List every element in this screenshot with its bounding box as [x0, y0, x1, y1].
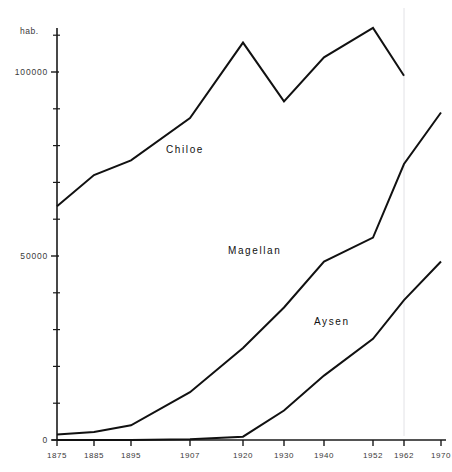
population-line-chart: 050000100000 187518851895190719201930194… [0, 0, 452, 472]
chart-canvas: 050000100000 187518851895190719201930194… [0, 0, 452, 472]
x-tick-label: 1907 [180, 451, 200, 460]
series-label-aysen: Aysen [314, 316, 350, 327]
y-tick-label: 0 [42, 435, 48, 445]
x-tick-label: 1875 [47, 451, 67, 460]
y-tick-label: 50000 [20, 251, 48, 261]
y-axis-ticks [51, 35, 60, 440]
chart-axes [52, 28, 446, 440]
y-tick-label: 100000 [15, 67, 48, 77]
x-tick-label: 1962 [394, 451, 414, 460]
x-tick-label: 1895 [121, 451, 141, 460]
series-label-chiloe: Chiloe [166, 144, 204, 155]
series-line-chiloe [57, 28, 404, 206]
x-tick-label: 1930 [274, 451, 294, 460]
x-tick-label: 1940 [314, 451, 334, 460]
x-tick-label: 1970 [431, 451, 451, 460]
series-line-magellan [57, 112, 441, 434]
series-paths [57, 28, 441, 440]
x-axis-tick-labels: 1875188518951907192019301940195219621970 [47, 451, 451, 460]
series-annotations: ChiloeMagellanAysen [166, 144, 350, 327]
series-label-magellan: Magellan [228, 245, 281, 256]
x-tick-label: 1920 [233, 451, 253, 460]
x-tick-label: 1952 [363, 451, 383, 460]
y-axis-tick-labels: 050000100000 [15, 67, 48, 445]
y-axis-unit-label: hab. [20, 26, 39, 36]
series-line-aysen [57, 262, 441, 440]
x-tick-label: 1885 [84, 451, 104, 460]
